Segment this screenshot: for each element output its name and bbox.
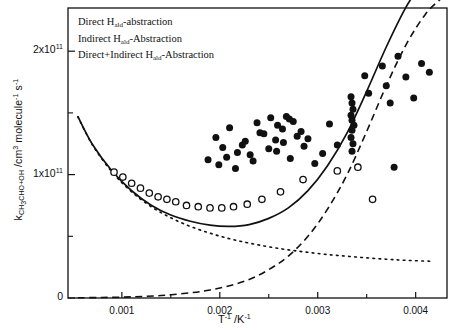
data-point-filled — [348, 93, 355, 100]
data-point-filled — [349, 140, 356, 147]
data-point-filled — [426, 69, 433, 76]
data-point-filled — [205, 156, 212, 163]
data-point-filled — [365, 90, 372, 97]
data-point-filled — [273, 148, 280, 155]
y-tick-label: 1x1011 — [33, 167, 63, 179]
data-point-open — [259, 196, 265, 202]
data-point-filled — [223, 154, 230, 161]
data-point-open — [334, 168, 340, 174]
legend-item-total: Direct+Indirect Hald-Abstraction — [78, 49, 293, 66]
data-point-open — [111, 169, 117, 175]
data-point-open — [369, 196, 375, 202]
data-point-filled — [349, 127, 356, 134]
y-axis-label-text: kCH3CHO+OH /cm3 molecule-1 s-1 — [12, 79, 24, 221]
data-point-filled — [395, 53, 402, 60]
data-point-filled — [348, 134, 355, 141]
data-point-filled — [265, 145, 272, 152]
data-point-filled — [219, 144, 226, 151]
x-tick-label: 0.001 — [100, 305, 144, 316]
data-point-filled — [334, 141, 341, 148]
data-point-filled — [387, 100, 394, 107]
data-point-filled — [272, 137, 279, 144]
data-point-open — [219, 205, 225, 211]
y-tick-label: 2x1011 — [33, 43, 63, 55]
data-point-filled — [234, 149, 241, 156]
data-point-filled — [215, 161, 222, 168]
data-point-filled — [280, 139, 287, 146]
data-point-filled — [391, 164, 398, 171]
data-point-filled — [254, 119, 261, 126]
legend-item-indirect: Indirect Hald-Abstraction — [78, 33, 293, 50]
data-point-open — [355, 164, 361, 170]
data-point-open — [195, 203, 201, 209]
data-point-filled — [301, 143, 308, 150]
y-axis-label: kCH3CHO+OH /cm3 molecule-1 s-1 — [12, 35, 27, 265]
data-point-filled — [383, 82, 390, 89]
data-point-filled — [349, 100, 356, 107]
legend: Direct Hald-abstraction Indirect Hald-Ab… — [78, 16, 293, 66]
data-point-open — [244, 201, 250, 207]
data-point-filled — [379, 63, 386, 70]
data-point-filled — [283, 113, 290, 120]
legend-label-indirect: Indirect Hald-Abstraction — [78, 33, 182, 46]
data-point-filled — [232, 165, 239, 172]
data-point-filled — [418, 60, 425, 67]
x-tick-label: 0.004 — [394, 305, 438, 316]
legend-label-total: Direct+Indirect Hald-Abstraction — [78, 49, 214, 62]
data-point-filled — [250, 158, 257, 165]
data-point-open — [137, 185, 143, 191]
y-tick-label: 0 — [57, 290, 63, 302]
data-point-filled — [239, 141, 246, 148]
data-point-filled — [290, 118, 297, 125]
data-point-filled — [326, 121, 333, 128]
data-point-filled — [247, 151, 254, 158]
data-point-filled — [226, 124, 233, 131]
chart-root: kCH3CHO+OH /cm3 molecule-1 s-1 T-1 /K-1 … — [0, 0, 457, 334]
data-point-filled — [311, 160, 318, 167]
data-point-open — [120, 174, 126, 180]
data-point-filled — [260, 130, 267, 137]
data-point-filled — [319, 150, 326, 157]
data-point-open — [230, 203, 236, 209]
data-point-filled — [349, 106, 356, 113]
data-point-filled — [212, 134, 219, 141]
data-point-open — [155, 194, 161, 200]
x-tick-label: 0.002 — [198, 305, 242, 316]
data-point-filled — [267, 114, 274, 121]
data-point-open — [183, 202, 189, 208]
x-tick-label: 0.003 — [296, 305, 340, 316]
data-point-filled — [279, 125, 286, 132]
data-point-filled — [361, 72, 368, 79]
data-point-open — [164, 196, 170, 202]
data-point-filled — [304, 135, 311, 142]
data-point-open — [277, 189, 283, 195]
data-point-filled — [298, 128, 305, 135]
data-points — [111, 53, 433, 211]
data-point-filled — [287, 155, 294, 162]
data-point-filled — [402, 74, 409, 81]
legend-item-direct: Direct Hald-abstraction — [78, 16, 293, 33]
legend-label-direct: Direct Hald-abstraction — [78, 16, 173, 29]
data-point-open — [173, 199, 179, 205]
data-point-open — [128, 180, 134, 186]
data-point-filled — [410, 95, 417, 102]
data-point-open — [207, 205, 213, 211]
data-point-open — [146, 190, 152, 196]
data-point-filled — [349, 148, 356, 155]
data-point-open — [300, 176, 306, 182]
